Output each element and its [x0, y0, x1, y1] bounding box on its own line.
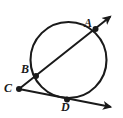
- point-b-dot: [33, 73, 39, 79]
- circle-outline: [31, 22, 107, 98]
- geometry-figure: A B C D: [0, 0, 123, 118]
- point-a-dot: [93, 26, 99, 32]
- point-b-label: B: [21, 63, 29, 75]
- point-c-dot: [16, 86, 22, 92]
- point-c-label: C: [4, 82, 12, 94]
- point-d-label: D: [61, 101, 70, 113]
- point-a-label: A: [84, 17, 92, 29]
